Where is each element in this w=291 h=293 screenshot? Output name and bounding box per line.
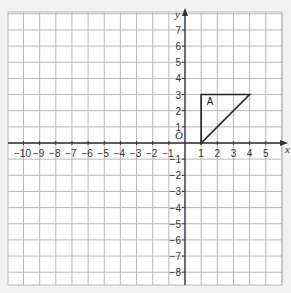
y-tick-label: −1 [170,154,182,165]
shape-label: A [207,96,214,107]
y-tick-label: −4 [170,203,182,214]
y-tick-label: −3 [170,186,182,197]
y-tick-label: −8 [170,267,182,278]
x-tick-label: −4 [114,148,126,159]
x-tick-label: 2 [215,148,221,159]
y-tick-label: 3 [175,90,181,101]
x-tick-label: 3 [231,148,237,159]
y-tick-label: 7 [175,25,181,36]
x-tick-label: −8 [49,148,61,159]
y-tick-label: −6 [170,235,182,246]
x-tick-label: 4 [247,148,253,159]
y-tick-label: 2 [175,106,181,117]
x-tick-label: −5 [98,148,110,159]
x-tick-label: −2 [146,148,158,159]
y-tick-label: 5 [175,57,181,68]
x-tick-label: −6 [81,148,93,159]
y-tick-label: 6 [175,41,181,52]
coordinate-grid: −10−9−8−7−6−5−4−3−2−1123457654321−1−2−3−… [0,0,291,293]
y-tick-label: 4 [175,73,181,84]
x-tick-label: −10 [14,148,31,159]
y-tick-label: −2 [170,170,182,181]
x-tick-label: 5 [263,148,269,159]
x-axis-label: x [284,143,290,155]
x-tick-label: −3 [130,148,142,159]
y-tick-label: −5 [170,219,182,230]
y-tick-label: −7 [170,251,182,262]
y-axis-label: y [174,8,180,20]
x-tick-label: −7 [65,148,77,159]
x-tick-label: 1 [198,148,204,159]
x-tick-label: −9 [33,148,45,159]
origin-label: O [175,129,183,141]
